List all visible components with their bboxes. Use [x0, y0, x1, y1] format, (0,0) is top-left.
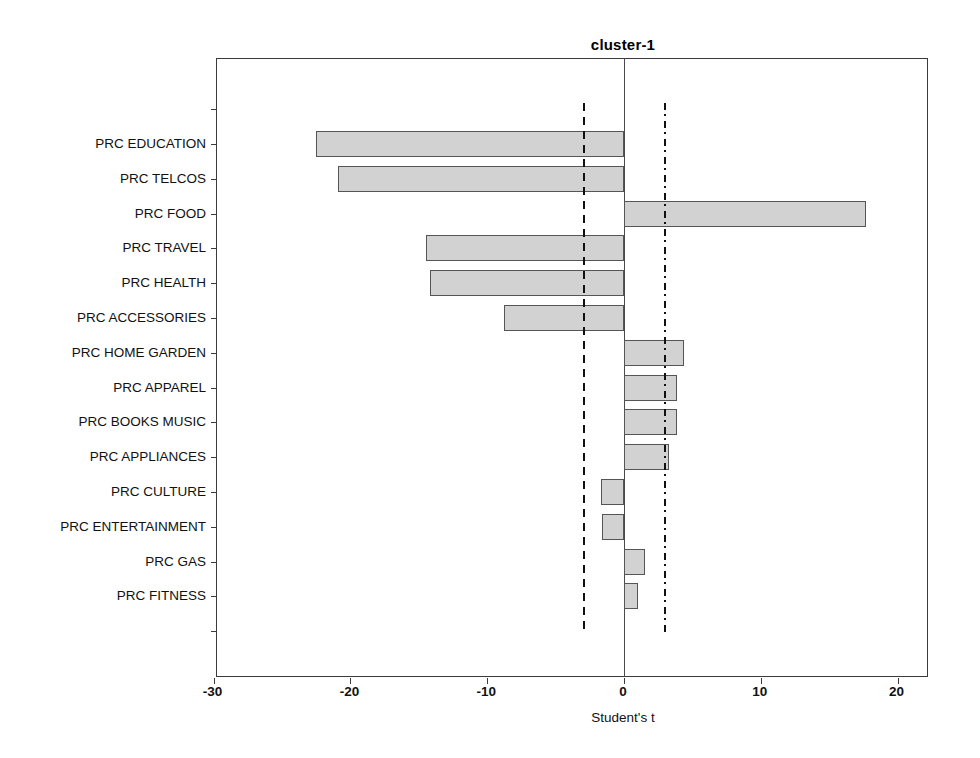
x-axis-tick-label: 10: [752, 684, 767, 699]
y-axis-label-prc-books-music: PRC BOOKS MUSIC: [78, 414, 206, 429]
bar: [624, 201, 866, 227]
y-axis-label-prc-appliances: PRC APPLIANCES: [90, 449, 206, 464]
bars-layer: [217, 59, 927, 676]
x-axis-tick-label: -20: [340, 684, 360, 699]
y-axis-tick: [211, 457, 217, 458]
bar: [624, 375, 677, 401]
x-axis-tick-labels: -30-20-1001020: [216, 684, 928, 710]
x-axis-tick-label: 20: [889, 684, 904, 699]
plot-area: [216, 58, 928, 677]
y-axis-tick: [211, 492, 217, 493]
y-axis-label-prc-accessories: PRC ACCESSORIES: [77, 310, 206, 325]
y-axis-label-prc-education: PRC EDUCATION: [95, 136, 206, 151]
bar: [316, 131, 624, 157]
bar: [624, 409, 677, 435]
bar: [602, 514, 624, 540]
y-axis-tick: [211, 318, 217, 319]
bar: [624, 549, 645, 575]
y-axis-label-prc-food: PRC FOOD: [135, 205, 206, 220]
y-axis-tick: [211, 144, 217, 145]
student-t-bar-chart: cluster-1 PRC EDUCATIONPRC TELCOSPRC FOO…: [0, 0, 980, 758]
y-axis-tick: [211, 109, 217, 110]
y-axis-label-prc-fitness: PRC FITNESS: [117, 588, 206, 603]
y-axis-label-prc-entertainment: PRC ENTERTAINMENT: [60, 518, 206, 533]
y-axis-tick: [211, 283, 217, 284]
y-axis-tick: [211, 596, 217, 597]
reference-line-lower-threshold: [583, 103, 585, 634]
bar: [504, 305, 624, 331]
y-axis-tick: [211, 179, 217, 180]
x-axis-tick-label: -10: [476, 684, 496, 699]
bar: [624, 583, 638, 609]
y-axis-label-prc-apparel: PRC APPAREL: [113, 379, 206, 394]
bar: [426, 235, 624, 261]
y-axis-label-prc-gas: PRC GAS: [145, 553, 206, 568]
y-axis-label-prc-health: PRC HEALTH: [121, 275, 206, 290]
y-axis-tick: [211, 214, 217, 215]
chart-title-text: cluster-1: [591, 36, 655, 53]
bar: [624, 444, 669, 470]
bar: [430, 270, 624, 296]
x-axis-tick-label: -30: [203, 684, 223, 699]
y-axis-tick: [211, 562, 217, 563]
y-axis-tick: [211, 422, 217, 423]
x-axis-tick-label: 0: [619, 684, 627, 699]
reference-line-upper-threshold: [664, 103, 666, 634]
bar: [338, 166, 624, 192]
y-axis-label-prc-telcos: PRC TELCOS: [120, 170, 206, 185]
y-axis-tick: [211, 248, 217, 249]
y-axis-labels: PRC EDUCATIONPRC TELCOSPRC FOODPRC TRAVE…: [0, 0, 216, 758]
y-axis-tick: [211, 527, 217, 528]
y-axis-tick: [211, 631, 217, 632]
y-axis-tick: [211, 388, 217, 389]
y-axis-label-prc-travel: PRC TRAVEL: [122, 240, 206, 255]
y-axis-label-prc-home-garden: PRC HOME GARDEN: [72, 344, 206, 359]
bar: [601, 479, 624, 505]
y-axis-label-prc-culture: PRC CULTURE: [111, 484, 206, 499]
x-axis-title: Student's t: [591, 710, 654, 725]
bar: [624, 340, 684, 366]
y-axis-tick: [211, 353, 217, 354]
